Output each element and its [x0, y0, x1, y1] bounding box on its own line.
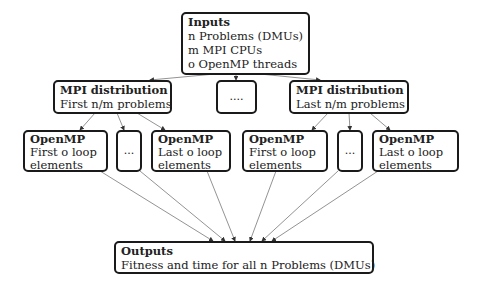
mpi-distribution-first-box: MPI distribution First n/m problems: [53, 80, 172, 114]
openmp-ellipsis-box-1: ...: [116, 130, 142, 172]
openmp-box-4: OpenMP Last o loop elements: [372, 130, 459, 172]
mpi-last-title: MPI distribution: [296, 83, 402, 97]
openmp-box-2: OpenMP Last o loop elements: [151, 130, 231, 172]
openmp-line2: elements: [249, 159, 321, 172]
openmp-line2: elements: [158, 159, 224, 172]
mpi-last-line: Last n/m problems: [296, 97, 402, 111]
openmp-ellipsis-box-2: ...: [337, 130, 363, 172]
mpi-ellipsis-label: ....: [230, 90, 244, 104]
inputs-line-problems: n Problems (DMUs): [188, 29, 303, 43]
inputs-title: Inputs: [188, 15, 303, 29]
mpi-first-line: First n/m problems: [60, 97, 165, 111]
mpi-distribution-last-box: MPI distribution Last n/m problems: [289, 80, 409, 114]
outputs-box: Outputs Fitness and time for all n Probl…: [114, 241, 374, 274]
openmp-ellipsis-label: ...: [124, 144, 135, 158]
mpi-first-title: MPI distribution: [60, 83, 165, 97]
openmp-line2: elements: [30, 159, 101, 172]
openmp-box-3: OpenMP First o loop elements: [242, 130, 328, 172]
outputs-title: Outputs: [121, 244, 367, 258]
outputs-line: Fitness and time for all n Problems (DMU…: [121, 258, 367, 272]
inputs-line-cpus: m MPI CPUs: [188, 43, 303, 57]
inputs-box: Inputs n Problems (DMUs) m MPI CPUs o Op…: [181, 12, 310, 75]
mpi-ellipsis-box: ....: [216, 80, 257, 114]
openmp-line2: elements: [379, 159, 452, 172]
openmp-box-1: OpenMP First o loop elements: [23, 130, 108, 172]
inputs-line-threads: o OpenMP threads: [188, 57, 303, 71]
openmp-ellipsis-label: ...: [345, 144, 356, 158]
